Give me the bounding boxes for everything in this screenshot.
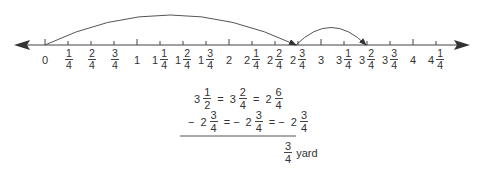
fraction: 24 bbox=[183, 48, 191, 71]
jump-arc-2 bbox=[296, 28, 366, 46]
result-row: 3 4 yard bbox=[282, 140, 318, 165]
tick-label: 24 bbox=[86, 48, 96, 71]
operator: = − bbox=[224, 116, 240, 128]
fraction: 24 bbox=[239, 86, 247, 111]
fraction: 34 bbox=[255, 109, 263, 134]
whole-number: 3 bbox=[194, 93, 200, 105]
whole-number: 2 bbox=[246, 116, 252, 128]
tick-label: 1 bbox=[134, 54, 140, 66]
whole-number: 2 bbox=[265, 93, 271, 105]
tick-label: 224 bbox=[267, 48, 283, 71]
operator: = bbox=[253, 93, 259, 105]
tick-label: 134 bbox=[198, 48, 214, 71]
operator: = − bbox=[269, 116, 285, 128]
result-unit: yard bbox=[296, 147, 317, 159]
result-fraction: 3 4 bbox=[284, 140, 292, 165]
tick-label: 234 bbox=[290, 48, 306, 71]
equation-row-1: 312=324=264 bbox=[194, 86, 283, 111]
fraction: 34 bbox=[210, 109, 218, 134]
fraction: 12 bbox=[203, 86, 211, 111]
ticks bbox=[45, 39, 436, 45]
tick-label: 214 bbox=[244, 48, 260, 71]
tick-label: 0 bbox=[42, 54, 48, 66]
tick-label: 334 bbox=[382, 48, 398, 71]
fraction: 34 bbox=[298, 48, 306, 71]
fraction: 34 bbox=[300, 109, 308, 134]
tick-label: 4 bbox=[410, 54, 416, 66]
fraction: 14 bbox=[65, 48, 73, 71]
tick-label: 324 bbox=[359, 48, 375, 71]
tick-label: 14 bbox=[63, 48, 73, 71]
whole-number: 2 bbox=[200, 116, 206, 128]
tick-label: 124 bbox=[175, 48, 191, 71]
fraction: 24 bbox=[367, 48, 375, 71]
tick-label: 314 bbox=[336, 48, 352, 71]
fraction: 24 bbox=[88, 48, 96, 71]
fraction: 64 bbox=[275, 86, 283, 111]
axis bbox=[14, 39, 470, 50]
fraction: 34 bbox=[390, 48, 398, 71]
fraction: 14 bbox=[436, 48, 444, 71]
operator: − bbox=[188, 116, 194, 128]
equation-row-2: −234= −234= −234 bbox=[182, 109, 308, 134]
operator: = bbox=[217, 93, 223, 105]
tick-label: 414 bbox=[428, 48, 444, 71]
tick-label: 114 bbox=[152, 48, 168, 71]
tick-label: 34 bbox=[109, 48, 119, 71]
whole-number: 3 bbox=[230, 93, 236, 105]
fraction: 34 bbox=[206, 48, 214, 71]
tick-label: 2 bbox=[226, 54, 232, 66]
fraction: 14 bbox=[160, 48, 168, 71]
tick-label: 3 bbox=[318, 54, 324, 66]
fraction: 34 bbox=[111, 48, 119, 71]
whole-number: 2 bbox=[291, 116, 297, 128]
fraction: 24 bbox=[275, 48, 283, 71]
fraction: 14 bbox=[252, 48, 260, 71]
jump-arc-1 bbox=[45, 15, 296, 45]
fraction: 14 bbox=[344, 48, 352, 71]
